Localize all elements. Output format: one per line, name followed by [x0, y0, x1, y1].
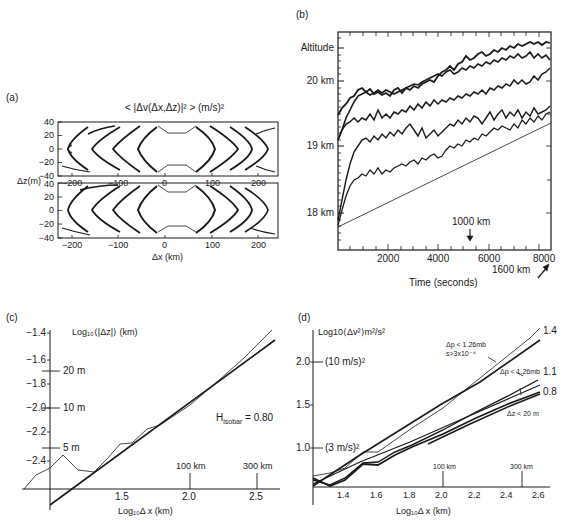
panel-d-annotation-dp: Δp < 1.26mb	[500, 368, 540, 375]
panel-b-annotation-1000km: 1000 km	[452, 217, 490, 227]
panel-b-annotation-1600km: 1600 km	[492, 265, 530, 275]
panel-b-ylabel-altitude: Altitude	[280, 43, 334, 53]
panel-c-ytick: −1.4	[10, 328, 46, 338]
panel-a-top-xtick: 200	[251, 179, 266, 188]
panel-a-bottom-xtick: 0	[162, 241, 167, 250]
panel-a-top-ytick: 40	[30, 118, 54, 127]
panel-c-xref-300km: 300 km	[243, 462, 273, 471]
panel-a-top-ytick: 0	[30, 145, 54, 154]
panel-c-xtick: 2.0	[182, 492, 196, 502]
panel-d-xref-100km: 100 km	[433, 463, 456, 470]
panel-d-annotation-dp-s: Δp < 1.26mb	[446, 341, 486, 348]
panel-c-xref-100km: 100 km	[176, 462, 206, 471]
panel-a-bottom-xtick: −200	[62, 241, 82, 250]
panel-a-top-ytick: 20	[30, 131, 54, 140]
panel-a-bottom-xtick: 100	[205, 241, 220, 250]
panel-a-top-xtick: −100	[108, 179, 128, 188]
panel-c-ytick: −1.6	[10, 355, 46, 365]
panel-d-xlabel: Log₁₀Δ x (km)	[396, 507, 451, 516]
panel-a-title: < |Δv(Δx,Δz)|² > (m/s)²	[125, 103, 224, 113]
panel-b-xtick: 6000	[478, 254, 500, 264]
panel-d-ref-10ms: (10 m/s)²	[325, 357, 365, 367]
panel-c-xlabel: Log₁₀Δ x (km)	[118, 507, 173, 516]
panel-c-xtick: 2.5	[249, 492, 263, 502]
panel-d-annotation-dz: Δz < 20 m	[507, 410, 539, 417]
panel-c-hurst: Hisobar = 0.80	[216, 413, 273, 425]
panel-a-label: (a)	[6, 93, 18, 103]
panel-d-xtick: 1.8	[403, 491, 416, 500]
panel-b-ytick-19km: 19 km	[280, 141, 334, 151]
panel-b-plot	[338, 32, 551, 278]
panel-d-xtick: 1.4	[337, 491, 350, 500]
panel-a-bottom-ytick: 0	[30, 206, 54, 215]
panel-c-ref-20m: 20 m	[63, 366, 85, 376]
panel-a-bottom-ytick: −40	[30, 234, 54, 243]
panel-a-bottom-plot	[58, 183, 278, 238]
panel-c-ytick: −2.4	[10, 456, 46, 466]
panel-c-ytick: −2.0	[10, 403, 46, 413]
panel-d-xref-300km: 300 km	[510, 463, 533, 470]
panel-d-annotation-s: s>3x10⁻⁴	[446, 350, 476, 357]
panel-d-xtick: 2.6	[532, 491, 545, 500]
panel-b-label: (b)	[296, 10, 308, 20]
panel-b-xlabel: Time (seconds)	[409, 278, 478, 288]
panel-a-top-xtick: 100	[205, 179, 220, 188]
panel-c-hurst-sub: isobar	[223, 418, 242, 425]
panel-d-xtick: 2.0	[435, 491, 448, 500]
panel-c-label: (c)	[6, 313, 18, 323]
panel-a-bottom-xtick: 200	[251, 241, 266, 250]
panel-a-bottom-ytick: −20	[30, 220, 54, 229]
panel-a-bottom-ytick: 40	[30, 180, 54, 189]
panel-b-xtick: 4000	[427, 254, 449, 264]
panel-c-ref-5m: 5 m	[63, 443, 80, 453]
panel-d-ylabel: Log10⟨Δv²⟩m²/s²	[318, 328, 385, 337]
panel-a-top-xtick: −200	[62, 179, 82, 188]
panel-b-xtick: 2000	[377, 254, 399, 264]
panel-c-xtick: 1.5	[115, 492, 129, 502]
panel-c-ytick: −2.2	[10, 427, 46, 437]
panel-a-bottom-ytick: 20	[30, 193, 54, 202]
panel-d-xtick: 2.4	[500, 491, 513, 500]
panel-d-slope-1-4: 1.4	[543, 326, 557, 336]
panel-d-slope-0-8: 0.8	[543, 387, 557, 397]
panel-d-ytick: 1.0	[282, 443, 310, 453]
panel-b-xtick: 8000	[533, 254, 555, 264]
panel-a-top-plot	[58, 122, 278, 176]
panel-b-ytick-18km: 18 km	[280, 208, 334, 218]
panel-d-slope-1-1: 1.1	[543, 367, 557, 377]
panel-d-xtick: 2.2	[468, 491, 481, 500]
panel-d-label: (d)	[298, 313, 310, 323]
panel-a-top-ytick: −20	[30, 158, 54, 167]
panel-b-ytick-20km: 20 km	[280, 76, 334, 86]
panel-a-xlabel: Δx (km)	[152, 253, 183, 262]
panel-a-bottom-xtick: −100	[108, 241, 128, 250]
panel-c-ylabel: Log₁₀⟨|Δz|⟩ (km)	[72, 328, 137, 337]
panel-d-ref-3ms: (3 m/s)²	[325, 443, 359, 453]
panel-d-ytick: 2.0	[282, 357, 310, 367]
panel-c-ytick: −1.8	[10, 379, 46, 389]
panel-d-xtick: 1.6	[370, 491, 383, 500]
panel-d-ytick: 1.5	[282, 400, 310, 410]
panel-a-top-xtick: 0	[162, 179, 167, 188]
panel-c-ref-10m: 10 m	[63, 403, 85, 413]
panel-c-hurst-value: = 0.80	[242, 412, 273, 423]
